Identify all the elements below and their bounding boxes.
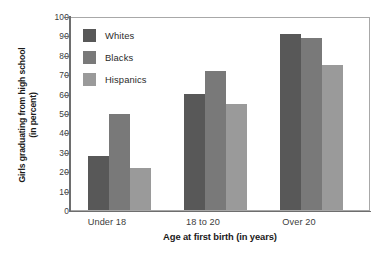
plot-area: Whites Blacks Hispanics <box>70 17 370 211</box>
legend-label-whites: Whites <box>105 30 134 41</box>
y-axis-title-line-1: Girls graduating from high school <box>18 47 28 182</box>
bar-blacks-18-to-20[interactable] <box>205 71 226 210</box>
legend: Whites Blacks Hispanics <box>83 29 147 86</box>
legend-item-whites[interactable]: Whites <box>83 29 147 42</box>
legend-label-blacks: Blacks <box>105 52 133 63</box>
bar-blacks-over-20[interactable] <box>301 38 322 210</box>
bar-group-over-20 <box>280 17 342 210</box>
legend-item-hispanics[interactable]: Hispanics <box>83 73 147 86</box>
legend-item-blacks[interactable]: Blacks <box>83 51 147 64</box>
y-axis-title-line-2: (in percent) <box>29 92 39 138</box>
x-axis-title: Age at first birth (in years) <box>70 231 370 242</box>
bar-blacks-under-18[interactable] <box>109 114 130 211</box>
x-axis-line <box>69 211 371 213</box>
bar-hispanics-under-18[interactable] <box>130 168 151 210</box>
x-tick-label-18-to-20: 18 to 20 <box>153 215 253 229</box>
bar-hispanics-18-to-20[interactable] <box>226 104 247 210</box>
x-tick-label-over-20: Over 20 <box>249 215 349 229</box>
x-tick-label-under-18: Under 18 <box>57 215 157 229</box>
y-axis-line <box>69 16 71 212</box>
legend-swatch-blacks-icon <box>83 51 96 64</box>
legend-swatch-hispanics-icon <box>83 73 96 86</box>
bar-whites-under-18[interactable] <box>88 156 109 210</box>
legend-swatch-whites-icon <box>83 29 96 42</box>
bar-chart-figure: Girls graduating from high school (in pe… <box>0 0 387 254</box>
bar-group-18-to-20 <box>184 17 246 210</box>
bar-whites-18-to-20[interactable] <box>184 94 205 210</box>
y-axis-title: Girls graduating from high school (in pe… <box>13 0 43 230</box>
legend-label-hispanics: Hispanics <box>105 74 147 85</box>
bar-whites-over-20[interactable] <box>280 34 301 210</box>
bar-hispanics-over-20[interactable] <box>322 65 343 210</box>
